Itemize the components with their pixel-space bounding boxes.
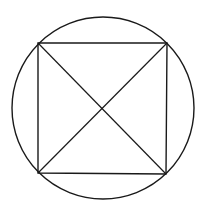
geometry-diagram: [0, 0, 203, 213]
